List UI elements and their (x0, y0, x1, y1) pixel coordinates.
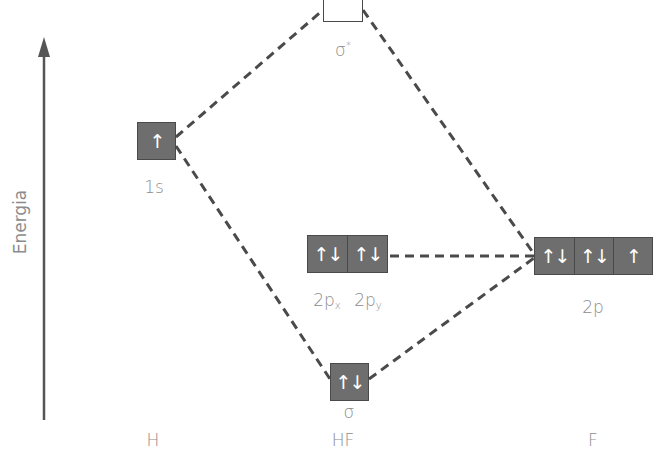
electron-up-icon: ↑ (626, 245, 640, 267)
f-2p-label: 2p (582, 297, 604, 317)
h-1s-orbital-box: ↑ (137, 122, 176, 160)
nonbonding-2py-orbital-box: ↑↓ (347, 235, 388, 273)
subscript-x: x (335, 300, 341, 311)
energy-axis-arrowhead-icon (38, 37, 50, 57)
nonbonding-2py-label: 2py (354, 290, 382, 311)
electron-pair-icon: ↑↓ (354, 243, 382, 265)
f-2p-orbital-box-3: ↑ (613, 237, 653, 275)
energy-axis-label: Energia (10, 190, 30, 255)
sigma-label: σ (344, 402, 355, 422)
nonbonding-2px-orbital-box: ↑↓ (307, 235, 348, 273)
column-label-f: F (588, 430, 598, 450)
electron-pair-icon: ↑↓ (541, 245, 569, 267)
f-2p-orbital-box-1: ↑↓ (534, 237, 575, 275)
label-2p: 2p (313, 290, 335, 310)
electron-pair-icon: ↑↓ (580, 245, 608, 267)
electron-pair-icon: ↑↓ (336, 371, 364, 393)
sigma-star-orbital-box (323, 0, 363, 22)
sigma-star-symbol: σ (335, 40, 346, 60)
line-1s-to-sigma-star (176, 10, 323, 137)
line-sigma-to-f2p (369, 258, 534, 379)
electron-pair-icon: ↑↓ (314, 243, 342, 265)
nonbonding-2px-label: 2px (313, 290, 341, 311)
column-label-hf: HF (332, 430, 355, 450)
f-2p-orbital-box-2: ↑↓ (574, 237, 614, 275)
line-sigma-star-to-f2p (363, 10, 534, 254)
sigma-orbital-box: ↑↓ (330, 363, 369, 401)
sigma-star-superscript: * (346, 40, 351, 51)
subscript-y: y (376, 300, 382, 311)
sigma-star-label: σ* (335, 40, 351, 60)
label-2p: 2p (354, 290, 376, 310)
h-1s-label: 1s (144, 177, 164, 197)
column-label-h: H (147, 430, 160, 450)
electron-up-icon: ↑ (150, 130, 164, 152)
